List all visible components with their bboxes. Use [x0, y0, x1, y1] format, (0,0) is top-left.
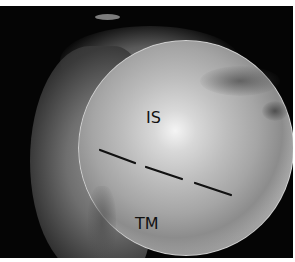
label-tm: TM	[135, 214, 159, 233]
label-is: IS	[146, 108, 161, 127]
image-border-bottom	[0, 258, 295, 262]
image-border-right	[293, 0, 295, 262]
